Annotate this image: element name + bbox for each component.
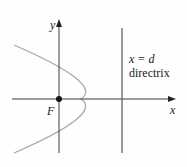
directrix-equation: x = d (129, 53, 154, 65)
x-axis-arrow-icon (168, 96, 176, 102)
focus-label: F (47, 105, 54, 117)
x-axis-label: x (170, 104, 175, 116)
y-axis-label: y (50, 19, 55, 31)
directrix-label: directrix (129, 67, 170, 79)
parabola-directrix-diagram: y x F x = d directrix (0, 0, 187, 167)
diagram-graphics (0, 0, 187, 167)
focus-point (56, 96, 62, 102)
y-axis-arrow-icon (56, 19, 62, 27)
